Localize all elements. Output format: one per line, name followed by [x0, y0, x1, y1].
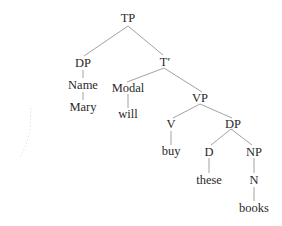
node-v: V: [166, 118, 175, 131]
node-mary: Mary: [69, 101, 96, 114]
edge-dp-np: [231, 129, 252, 145]
node-d: D: [204, 146, 213, 159]
scan-artifact: [20, 108, 31, 158]
node-dp-subject: DP: [75, 57, 91, 70]
node-buy: buy: [162, 145, 181, 158]
node-name: Name: [68, 79, 98, 92]
edge-dp-d: [211, 129, 231, 145]
syntax-tree-edges: [0, 0, 282, 226]
node-modal: Modal: [112, 82, 145, 95]
edge-tp-dp: [84, 26, 128, 56]
node-t-bar: T′: [160, 56, 170, 69]
node-these: these: [196, 174, 222, 187]
node-n: N: [249, 174, 258, 187]
node-vp: VP: [192, 92, 208, 105]
node-books: books: [239, 202, 269, 215]
edge-tbar-vp: [164, 68, 202, 92]
edge-vp-v: [173, 104, 200, 118]
node-dp-object: DP: [225, 118, 241, 131]
node-np: NP: [246, 146, 262, 159]
node-will: will: [118, 108, 137, 121]
edge-tp-tbar: [128, 26, 163, 55]
node-tp: TP: [121, 12, 136, 25]
